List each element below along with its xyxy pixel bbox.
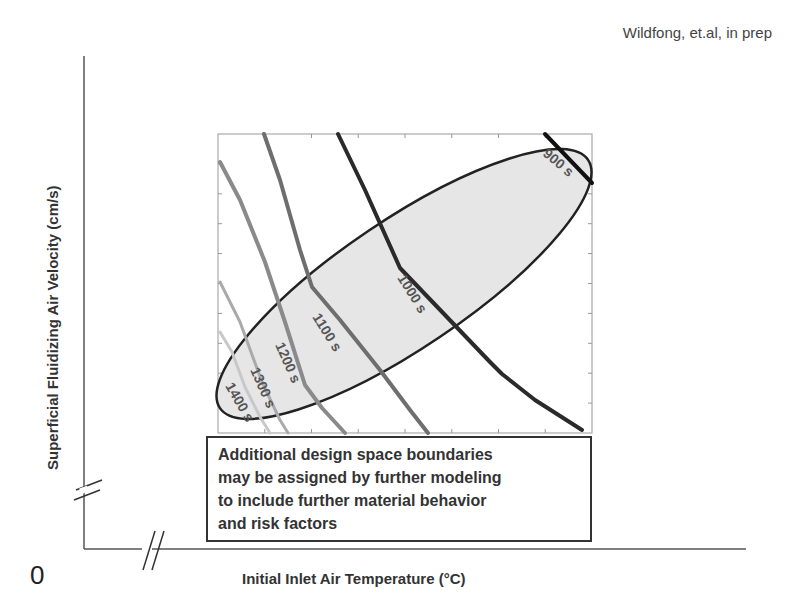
origin-label: 0: [30, 560, 44, 591]
note-line: and risk factors: [218, 512, 580, 535]
note-line: Additional design space boundaries: [218, 443, 580, 466]
note-box: Additional design space boundaries may b…: [206, 436, 592, 542]
note-line: to include further material behavior: [218, 489, 580, 512]
contour-plot: 900 s 1000 s 1100 s 1200 s 1300 s 1400 s: [184, 107, 624, 461]
y-axis-break-icon: [74, 480, 102, 500]
y-axis-label: Superficial Fluidizing Air Velocity (cm/…: [44, 185, 61, 470]
note-line: may be assigned by further modeling: [218, 466, 580, 489]
x-axis-break-icon: [142, 531, 164, 570]
x-axis-label: Initial Inlet Air Temperature (°C): [242, 570, 466, 587]
